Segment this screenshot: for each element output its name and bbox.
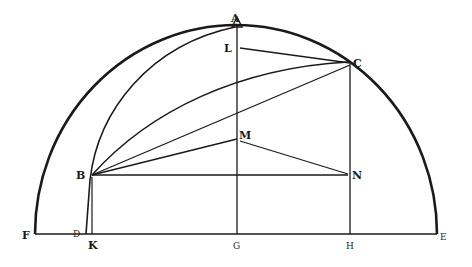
label-D: D <box>73 229 80 239</box>
segment-BC <box>92 65 350 175</box>
outer-semicircle-arc <box>35 25 437 234</box>
segment-MN <box>240 141 348 174</box>
label-C: C <box>353 57 362 70</box>
label-K: K <box>88 239 98 252</box>
label-A: A <box>230 12 240 25</box>
label-H: H <box>346 241 354 251</box>
label-L: L <box>224 42 232 55</box>
label-N: N <box>352 169 362 182</box>
label-F: F <box>22 229 30 242</box>
label-E: E <box>440 232 447 242</box>
label-B: B <box>76 169 85 182</box>
diagram-canvas: A L C M B N F D K G H E <box>0 0 472 267</box>
geometric-figure: A L C M B N F D K G H E <box>0 0 472 267</box>
inner-arc-ABD <box>86 27 235 234</box>
label-G: G <box>233 241 240 251</box>
label-M: M <box>239 129 251 142</box>
